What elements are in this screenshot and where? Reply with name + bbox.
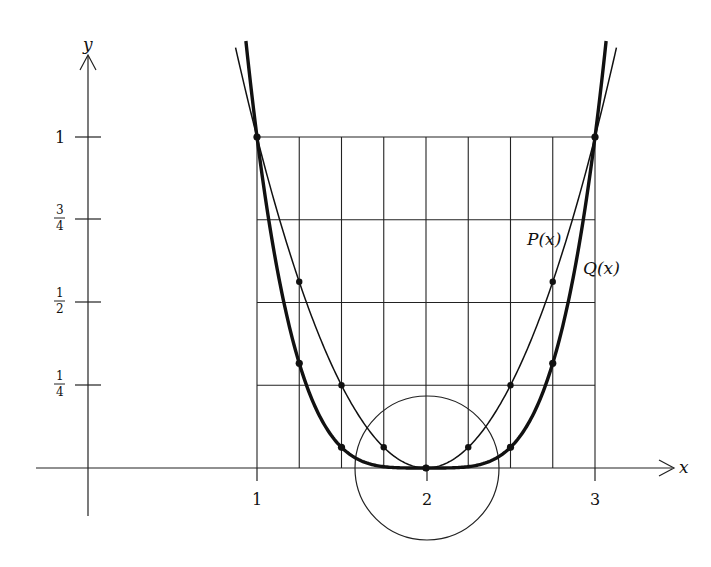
data-point [338,444,345,451]
data-point [381,444,387,450]
data-point [550,279,556,285]
q-curve-label: Q(x) [583,258,620,278]
p-curve-label: P(x) [526,229,561,249]
y-axis [80,55,96,516]
y-tick-label-one-half: 1 2 [54,286,65,316]
x-tick-label-2: 2 [422,490,432,509]
x-tick-label-3: 3 [590,490,600,509]
data-point [507,444,514,451]
polynomial-comparison-plot: y x 1 2 3 1 3 4 1 2 1 4 P(x) Q(x) [0,0,711,567]
grid [257,137,595,468]
fraction-numerator: 3 [56,203,64,217]
data-point [338,382,344,388]
y-axis-label: y [82,34,93,54]
data-point [465,444,471,450]
x-axis-label: x [679,457,689,477]
fraction-numerator: 1 [56,286,64,300]
fraction-denominator: 4 [56,385,64,399]
data-point [253,133,260,140]
x-tick-label-1: 1 [252,490,262,509]
data-point [296,360,303,367]
data-point [549,360,556,367]
data-point [507,382,513,388]
fraction-denominator: 2 [56,302,64,316]
y-tick-label-three-quarters: 3 4 [54,203,65,233]
fraction-numerator: 1 [56,369,64,383]
y-tick-label-one-quarter: 1 4 [54,369,65,399]
fraction-denominator: 4 [56,219,64,233]
data-point [296,279,302,285]
data-point [422,464,429,471]
data-point [591,133,598,140]
y-tick-label-1: 1 [55,128,65,147]
